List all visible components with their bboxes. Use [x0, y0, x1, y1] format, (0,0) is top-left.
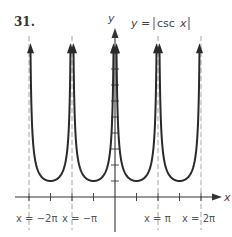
asymptote-label-2pi: x = 2π	[182, 213, 215, 224]
x-axis-label: x	[223, 191, 231, 204]
csc-branch	[74, 51, 114, 181]
title-var: x	[179, 17, 187, 30]
y-axis-label: y	[107, 12, 115, 25]
title-func: csc	[157, 17, 175, 30]
svg-text:y =: y =	[130, 17, 150, 30]
x-axis-arrow-icon	[212, 194, 222, 201]
asymptote-label-negpi: x = −π	[62, 213, 97, 224]
curve-arrow-icon	[27, 43, 34, 53]
csc-branch	[117, 51, 157, 181]
csc-branch	[160, 51, 200, 181]
curve-arrow-icon	[196, 43, 203, 53]
chart-title: y = csc x	[130, 17, 189, 30]
title-eq: =	[138, 17, 151, 30]
graph: 31. y x y = csc x x = −2π x = −π x = π x…	[0, 0, 232, 237]
csc-branch	[31, 51, 71, 181]
problem-number: 31.	[14, 15, 35, 29]
asymptote-label-neg2pi: x = −2π	[16, 213, 57, 224]
asymptote-label-pi: x = π	[144, 213, 171, 224]
y-axis-arrow-icon	[112, 28, 119, 38]
